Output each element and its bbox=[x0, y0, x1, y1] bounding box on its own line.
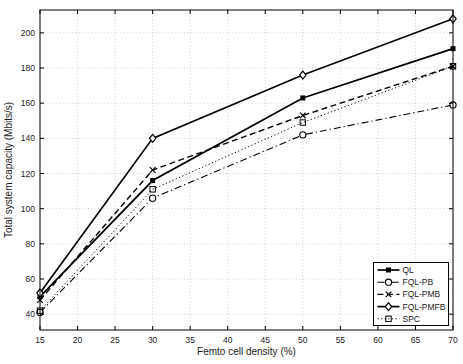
legend-label: FQL-PB bbox=[403, 277, 434, 287]
x-tick-labels: 152025303540455055606570 bbox=[35, 335, 458, 345]
x-tick-label: 25 bbox=[110, 335, 120, 345]
legend-label: QL bbox=[403, 265, 415, 275]
fql-pb-marker-open-circle bbox=[150, 195, 156, 201]
x-tick-label: 50 bbox=[298, 335, 308, 345]
y-tick-label: 180 bbox=[21, 63, 35, 73]
y-tick-label: 140 bbox=[21, 133, 35, 143]
y-tick-label: 100 bbox=[21, 204, 35, 214]
matlab-figure: 152025303540455055606570 406080100120140… bbox=[0, 0, 463, 364]
y-axis-label: Total system capacity (Mbits/s) bbox=[3, 102, 14, 238]
x-tick-label: 35 bbox=[185, 335, 195, 345]
legend-ql-marker-filled-square bbox=[386, 268, 391, 273]
x-tick-label: 30 bbox=[148, 335, 158, 345]
x-tick-label: 70 bbox=[448, 335, 458, 345]
series-line-ql bbox=[40, 49, 453, 297]
ql-marker-filled-square bbox=[150, 178, 155, 183]
legend-label: FQL-PMB bbox=[403, 289, 441, 299]
x-tick-label: 20 bbox=[73, 335, 83, 345]
y-tick-label: 80 bbox=[26, 239, 36, 249]
legend-item-fql-pmfb: FQL-PMFB bbox=[378, 302, 446, 312]
fql-pb-marker-open-circle bbox=[300, 132, 306, 138]
series-fql-pmfb bbox=[40, 19, 453, 293]
line-chart: 152025303540455055606570 406080100120140… bbox=[0, 0, 463, 364]
y-tick-label: 120 bbox=[21, 169, 35, 179]
ql-marker-filled-square bbox=[300, 95, 305, 100]
series-line-fql-pmfb bbox=[40, 19, 453, 293]
legend-label: FQL-PMFB bbox=[403, 302, 446, 312]
y-tick-label: 40 bbox=[26, 309, 36, 319]
x-tick-label: 15 bbox=[35, 335, 45, 345]
y-tick-label: 200 bbox=[21, 28, 35, 38]
series-ql bbox=[40, 49, 453, 297]
x-tick-label: 40 bbox=[223, 335, 233, 345]
legend: QLFQL-PBFQL-PMBFQL-PMFBSPC bbox=[374, 263, 449, 326]
x-tick-label: 45 bbox=[261, 335, 271, 345]
x-tick-label: 65 bbox=[411, 335, 421, 345]
x-tick-label: 55 bbox=[336, 335, 346, 345]
legend-label: SPC bbox=[403, 314, 420, 324]
y-tick-labels: 406080100120140160180200 bbox=[21, 28, 35, 319]
legend-fql-pb-marker-open-circle bbox=[385, 279, 391, 285]
x-tick-label: 60 bbox=[373, 335, 383, 345]
y-tick-label: 60 bbox=[26, 274, 36, 284]
x-axis-label: Femto cell density (%) bbox=[197, 346, 296, 357]
fql-pmfb-marker-open-diamond bbox=[300, 71, 306, 79]
y-tick-label: 160 bbox=[21, 98, 35, 108]
